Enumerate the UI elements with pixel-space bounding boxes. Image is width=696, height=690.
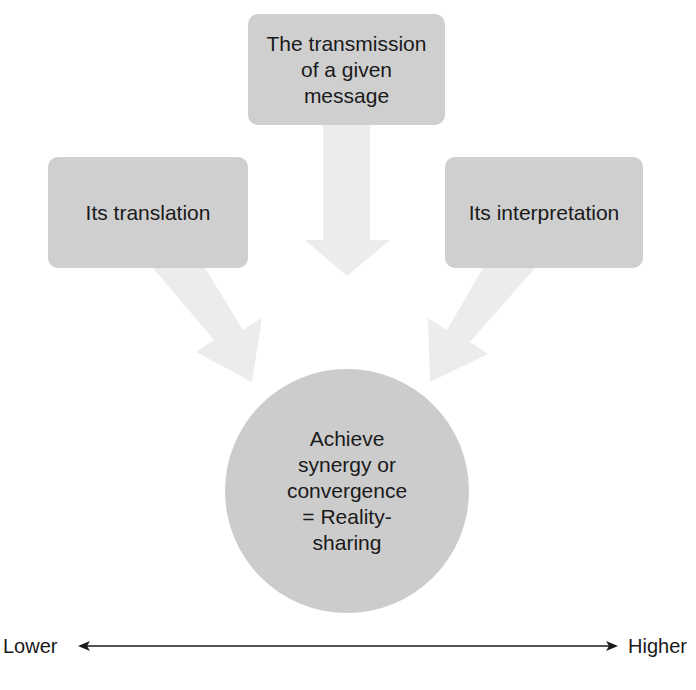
input-box-transmission: The transmission of a given message xyxy=(248,14,445,125)
input-box-translation: Its translation xyxy=(48,157,248,268)
scale-high-label: Higher xyxy=(628,634,687,658)
scale-low-label: Lower xyxy=(3,634,57,658)
arrow-down-icon xyxy=(305,125,390,276)
input-box-label: Its translation xyxy=(86,200,211,226)
outcome-label: Achieve synergy or convergence = Reality… xyxy=(277,426,417,556)
scale-arrow-icon xyxy=(78,641,618,651)
outcome-circle: Achieve synergy or convergence = Reality… xyxy=(225,369,469,613)
diagram-canvas: The transmission of a given message Its … xyxy=(0,0,696,690)
input-box-label: The transmission of a given message xyxy=(267,31,427,109)
input-box-interpretation: Its interpretation xyxy=(445,157,643,268)
arrow-down-right-icon xyxy=(153,268,262,382)
input-box-label: Its interpretation xyxy=(469,200,620,226)
arrow-down-left-icon xyxy=(428,268,535,382)
